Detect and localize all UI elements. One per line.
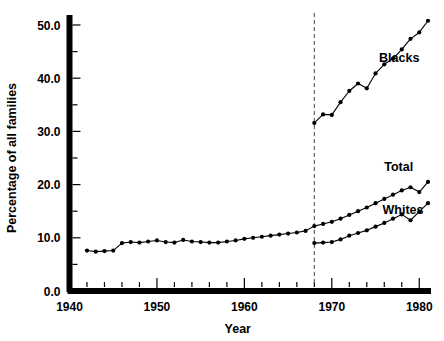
- x-tick-label: 1960: [231, 300, 258, 314]
- data-point: [321, 222, 325, 226]
- series-total: Total: [85, 160, 430, 254]
- data-point: [94, 250, 98, 254]
- chart-plot-area: 0.010.020.030.040.050.019401950196019701…: [5, 13, 433, 336]
- data-point: [408, 37, 412, 41]
- data-point: [365, 205, 369, 209]
- data-point: [172, 240, 176, 244]
- data-point: [234, 238, 238, 242]
- data-point: [242, 237, 246, 241]
- data-point: [277, 233, 281, 237]
- data-point: [408, 218, 412, 222]
- data-point: [356, 81, 360, 85]
- data-point: [382, 221, 386, 225]
- data-point: [137, 240, 141, 244]
- data-point: [426, 201, 430, 205]
- data-point: [164, 240, 168, 244]
- data-point: [417, 190, 421, 194]
- data-point: [312, 224, 316, 228]
- data-point: [111, 248, 115, 252]
- data-point: [102, 249, 106, 253]
- data-point: [426, 19, 430, 23]
- data-point: [356, 231, 360, 235]
- data-point: [216, 240, 220, 244]
- data-point: [303, 229, 307, 233]
- data-point: [155, 238, 159, 242]
- data-point: [330, 240, 334, 244]
- data-point: [312, 241, 316, 245]
- data-point: [85, 248, 89, 252]
- series-label-blacks: Blacks: [379, 51, 419, 65]
- data-point: [207, 240, 211, 244]
- data-point: [426, 180, 430, 184]
- data-point: [356, 209, 360, 213]
- data-point: [417, 30, 421, 34]
- data-point: [251, 236, 255, 240]
- series-label-total: Total: [384, 160, 413, 174]
- data-point: [146, 239, 150, 243]
- data-point: [365, 86, 369, 90]
- data-point: [312, 121, 316, 125]
- y-tick-label: 30.0: [37, 125, 61, 139]
- y-tick-label: 20.0: [37, 178, 61, 192]
- data-point: [373, 225, 377, 229]
- x-tick-label: 1950: [144, 300, 171, 314]
- data-point: [408, 185, 412, 189]
- data-point: [330, 220, 334, 224]
- data-point: [269, 234, 273, 238]
- y-tick-label: 50.0: [37, 19, 61, 33]
- data-point: [365, 228, 369, 232]
- data-point: [373, 201, 377, 205]
- data-point: [129, 240, 133, 244]
- data-point: [295, 230, 299, 234]
- data-point: [321, 112, 325, 116]
- x-tick-label: 1940: [56, 300, 83, 314]
- data-point: [347, 89, 351, 93]
- line-chart-figure: 0.010.020.030.040.050.019401950196019701…: [0, 0, 444, 341]
- data-point: [382, 197, 386, 201]
- y-tick-label: 40.0: [37, 72, 61, 86]
- y-tick-label: 10.0: [37, 231, 61, 245]
- data-point: [120, 241, 124, 245]
- x-axis-title: Year: [225, 322, 252, 336]
- data-point: [391, 193, 395, 197]
- series-line: [314, 21, 428, 123]
- data-point: [181, 238, 185, 242]
- series-label-whites: Whites: [383, 203, 424, 217]
- x-tick-label: 1980: [406, 300, 433, 314]
- data-point: [400, 188, 404, 192]
- series-blacks: Blacks: [312, 19, 430, 125]
- data-point: [199, 240, 203, 244]
- data-point: [338, 217, 342, 221]
- data-point: [347, 234, 351, 238]
- data-point: [373, 71, 377, 75]
- data-point: [321, 240, 325, 244]
- data-point: [330, 113, 334, 117]
- x-tick-label: 1970: [318, 300, 345, 314]
- data-point: [190, 239, 194, 243]
- data-point: [347, 213, 351, 217]
- series-whites: Whites: [312, 201, 430, 245]
- data-point: [286, 231, 290, 235]
- data-point: [338, 100, 342, 104]
- data-point: [225, 239, 229, 243]
- y-tick-label: 0.0: [44, 285, 61, 299]
- y-axis-title: Percentage of all families: [5, 83, 19, 233]
- data-point: [338, 237, 342, 241]
- data-point: [260, 235, 264, 239]
